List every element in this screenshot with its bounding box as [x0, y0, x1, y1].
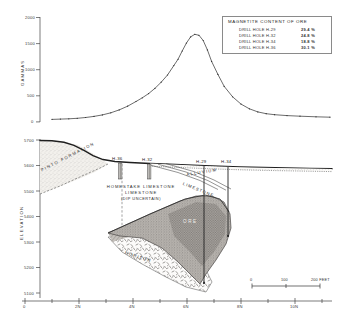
section-xtick-1: 2N	[75, 304, 81, 309]
profile-ytick-2: 1000	[25, 67, 35, 72]
legend-title: MAGNETITE CONTENT OF ORE	[228, 19, 307, 24]
scale-bar-end: 200 FEET	[311, 278, 330, 282]
legend-row-3-name: DRILL HOLE H-36	[239, 45, 276, 50]
section-ytick-3: 5400	[24, 214, 34, 219]
section-xtick-2: 4N	[129, 304, 135, 309]
profile-ytick-3: 500	[27, 93, 34, 98]
legend-row-1-value: 24.8 %	[301, 33, 315, 38]
profile-ytick-4: 0	[31, 119, 33, 124]
legend-row-2-name: DRILL HOLE H-34	[239, 39, 276, 44]
section-ytick-6: 5100	[24, 291, 34, 296]
unit-label-homestake-limestone-2: LIMESTONE	[106, 190, 176, 195]
drill-hole-H-32	[148, 164, 151, 179]
legend-row-0-name: DRILL HOLE H-29	[239, 27, 276, 32]
section-ytick-2: 5500	[24, 189, 34, 194]
scale-bar-start: 0	[250, 278, 252, 282]
drill-hole-label-H-34: H-34	[221, 159, 232, 164]
drill-hole-label-H-36: H-36	[112, 156, 123, 161]
profile-y-ticks	[36, 18, 40, 122]
drill-hole-label-H-29: H-29	[196, 159, 207, 164]
profile-ytick-0: 2000	[25, 15, 35, 20]
scale-bar-mid: 100	[281, 278, 288, 282]
legend-row-0-value: 29.4 %	[301, 27, 315, 32]
drill-hole-H-36	[119, 163, 122, 179]
scale-bar	[252, 284, 320, 289]
section-ytick-5: 5200	[24, 265, 34, 270]
drill-hole-label-H-32: H-32	[142, 157, 153, 162]
section-xtick-3: 6N	[183, 304, 189, 309]
section-xtick-5: 10N	[290, 304, 298, 309]
section-ytick-1: 5600	[24, 163, 34, 168]
section-ytick-0: 5700	[24, 138, 34, 143]
legend-row-2-value: 18.8 %	[301, 39, 315, 44]
profile-y-axis-title: GAMMAS	[20, 60, 25, 86]
section-xtick-4: 8N	[237, 304, 243, 309]
unit-label-homestake-limestone: HOMESTAKE LIMESTONE	[106, 184, 176, 189]
section-xtick-0: 0	[23, 304, 25, 309]
section-y-axis-title: ELEVATION	[19, 206, 24, 240]
unit-label-ore: ORE	[183, 219, 198, 224]
profile-ytick-1: 1500	[25, 41, 35, 46]
legend-row-3-value: 30.1 %	[301, 45, 315, 50]
unit-label-dip-uncertain: (DIP UNCERTAIN)	[104, 196, 178, 201]
section-ytick-4: 5300	[24, 240, 34, 245]
legend-row-1-name: DRILL HOLE H-32	[239, 33, 276, 38]
section-y-ticks	[36, 140, 40, 293]
